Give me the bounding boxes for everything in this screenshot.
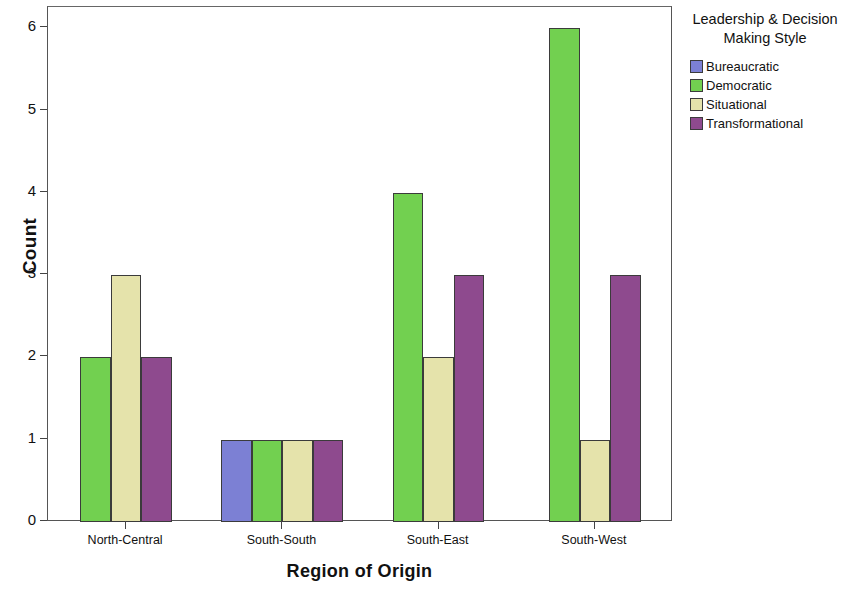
plot-area: [47, 6, 672, 521]
y-tick-label: 2: [6, 345, 36, 365]
legend-item-label: Bureaucratic: [706, 59, 779, 74]
bar: [393, 193, 424, 522]
y-tick-label: 3: [6, 263, 36, 283]
x-tick-mark: [594, 521, 595, 529]
y-tick-mark: [40, 438, 47, 439]
y-tick-label: 4: [6, 181, 36, 201]
legend-item-label: Democratic: [706, 78, 772, 93]
y-tick-mark: [40, 273, 47, 274]
legend-swatch-icon: [690, 98, 703, 111]
bar: [111, 275, 142, 522]
y-tick-mark: [40, 355, 47, 356]
y-tick-label: 5: [6, 99, 36, 119]
bar: [423, 357, 454, 522]
bar: [313, 440, 344, 522]
bar: [282, 440, 313, 522]
legend-item-label: Situational: [706, 97, 767, 112]
x-axis-title: Region of Origin: [47, 561, 672, 582]
y-tick-label: 0: [6, 510, 36, 530]
x-tick-mark: [438, 521, 439, 529]
legend: Leadership & Decision Making Style Burea…: [676, 10, 858, 133]
y-tick-mark: [40, 26, 47, 27]
legend-items: BureaucraticDemocraticSituationalTransfo…: [690, 57, 858, 132]
x-tick-mark: [125, 521, 126, 529]
y-tick-mark: [40, 520, 47, 521]
legend-item: Bureaucratic: [690, 57, 858, 75]
legend-item: Democratic: [690, 76, 858, 94]
bar: [80, 357, 111, 522]
bar: [549, 28, 580, 522]
bar: [580, 440, 611, 522]
y-tick-label: 1: [6, 428, 36, 448]
y-tick-mark: [40, 191, 47, 192]
y-tick-mark: [40, 109, 47, 110]
x-axis-category-label: North-Central: [45, 533, 205, 547]
y-tick-label: 6: [6, 16, 36, 36]
bar: [141, 357, 172, 522]
legend-swatch-icon: [690, 117, 703, 130]
bar: [221, 440, 252, 522]
legend-swatch-icon: [690, 60, 703, 73]
legend-title-line-2: Making Style: [676, 29, 854, 48]
bar: [252, 440, 283, 522]
x-axis-category-label: South-West: [514, 533, 674, 547]
bar-chart: Count 0123456 North-CentralSouth-SouthSo…: [0, 0, 858, 591]
legend-item: Transformational: [690, 114, 858, 132]
x-tick-mark: [281, 521, 282, 529]
bar: [610, 275, 641, 522]
legend-item-label: Transformational: [706, 116, 803, 131]
legend-item: Situational: [690, 95, 858, 113]
x-axis-category-label: South-South: [201, 533, 361, 547]
bar: [454, 275, 485, 522]
x-axis-category-label: South-East: [358, 533, 518, 547]
legend-title: Leadership & Decision Making Style: [676, 10, 854, 48]
legend-title-line-1: Leadership & Decision: [676, 10, 854, 29]
legend-swatch-icon: [690, 79, 703, 92]
